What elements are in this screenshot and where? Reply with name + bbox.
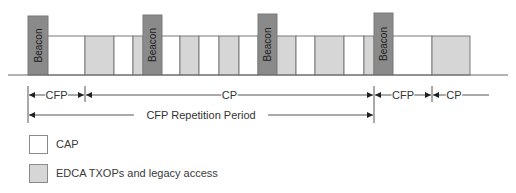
arrow-head-icon: [86, 92, 92, 98]
interval-label: CFP: [46, 89, 68, 101]
legend-label-cap: CAP: [56, 138, 79, 150]
edca-txop-block: [432, 36, 470, 75]
cap-block: [162, 36, 180, 75]
interval-label: CP: [446, 89, 461, 101]
medium-timeline-blocks: BeaconBeaconBeaconBeacon: [28, 13, 470, 75]
edca-txop-block: [133, 36, 143, 75]
cap-swatch: [29, 135, 48, 154]
interval-label: CFP: [392, 89, 414, 101]
interval-annotations: CFPCPCFPCPCFP Repetition Period: [28, 86, 489, 123]
cap-block: [296, 36, 315, 75]
cap-block: [114, 36, 133, 75]
arrow-head-icon: [375, 92, 381, 98]
edca-swatch: [29, 164, 48, 183]
edca-txop-block: [180, 36, 199, 75]
cfp-cp-timing-diagram: BeaconBeaconBeaconBeacon CFPCPCFPCPCFP R…: [0, 0, 516, 130]
cap-block: [344, 36, 364, 75]
edca-txop-block: [315, 36, 344, 75]
cap-block: [48, 36, 85, 75]
cap-block: [393, 36, 432, 75]
edca-txop-block: [277, 36, 296, 75]
cap-block: [199, 36, 219, 75]
beacon-label: Beacon: [378, 27, 389, 61]
arrow-head-icon: [433, 92, 439, 98]
arrow-head-icon: [367, 92, 373, 98]
interval-label: CP: [222, 89, 237, 101]
interval-label: CFP Repetition Period: [146, 109, 255, 121]
edca-txop-block: [219, 36, 239, 75]
cap-block: [239, 36, 258, 75]
edca-txop-block: [364, 36, 374, 75]
legend-label-edca: EDCA TXOPs and legacy access: [56, 167, 218, 179]
arrow-head-icon: [78, 92, 84, 98]
beacon-label: Beacon: [262, 28, 273, 62]
edca-txop-block: [85, 36, 114, 75]
arrow-head-icon: [367, 112, 373, 118]
arrow-head-icon: [425, 92, 431, 98]
arrow-head-icon: [29, 112, 35, 118]
beacon-label: Beacon: [33, 29, 44, 63]
beacon-label: Beacon: [147, 28, 158, 62]
arrow-head-icon: [29, 92, 35, 98]
